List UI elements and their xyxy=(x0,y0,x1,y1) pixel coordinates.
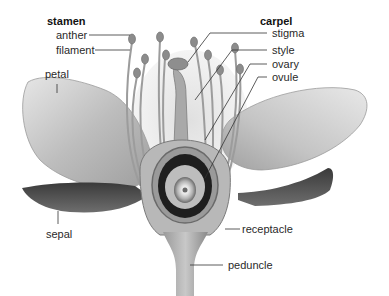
label-sepal: sepal xyxy=(46,228,72,240)
label-ovule: ovule xyxy=(272,71,298,83)
label-receptacle: receptacle xyxy=(242,223,293,235)
label-style: style xyxy=(272,44,295,56)
label-petal: petal xyxy=(45,68,69,80)
flower-diagram: stamen anther filament petal sepal carpe… xyxy=(0,0,389,296)
label-peduncle: peduncle xyxy=(228,259,273,271)
label-anther: anther xyxy=(56,29,87,41)
label-filament: filament xyxy=(56,44,95,56)
label-stamen: stamen xyxy=(47,15,86,27)
label-ovary: ovary xyxy=(272,58,299,70)
sepal-right xyxy=(238,168,333,206)
ovule-center xyxy=(183,188,188,193)
peduncle xyxy=(163,232,208,296)
stigma xyxy=(168,58,188,70)
label-stigma: stigma xyxy=(272,27,304,39)
label-carpel: carpel xyxy=(260,15,292,27)
sepal-left xyxy=(22,182,148,212)
